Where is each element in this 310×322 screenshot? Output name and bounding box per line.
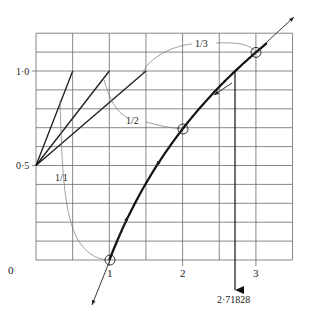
tangent-arrow-p2 bbox=[156, 147, 170, 166]
leader-1-2 bbox=[104, 80, 128, 118]
slope-label-1-3: 1/3 bbox=[195, 38, 208, 49]
x-tick-label-3: 3 bbox=[253, 267, 259, 279]
ln-curve bbox=[109, 43, 267, 260]
grid bbox=[32, 33, 293, 266]
tangent-arrows bbox=[92, 17, 294, 305]
tangent-arrow-top bbox=[256, 17, 294, 52]
e-value-label: 2·71828 bbox=[217, 294, 250, 305]
leader-1-3b bbox=[216, 43, 256, 52]
x-tick-label-1: 1 bbox=[107, 267, 113, 279]
y-tick-label-0-5: 0·5 bbox=[16, 160, 29, 171]
log-curve-diagram: 0 1 2 3 0·5 1·0 1/1 1/2 1/3 2·71828 bbox=[0, 0, 310, 322]
leader-curves bbox=[60, 43, 256, 260]
tangent-arrow-p1 bbox=[110, 216, 128, 260]
slope-label-1-2: 1/2 bbox=[126, 115, 139, 126]
slope-label-1-1: 1/1 bbox=[55, 172, 68, 183]
x-tick-label-2: 2 bbox=[180, 267, 186, 279]
origin-label: 0 bbox=[8, 264, 14, 276]
slope-line-1 bbox=[36, 71, 73, 166]
leader-1-3 bbox=[142, 44, 192, 75]
y-tick-label-1-0: 1·0 bbox=[16, 66, 29, 77]
